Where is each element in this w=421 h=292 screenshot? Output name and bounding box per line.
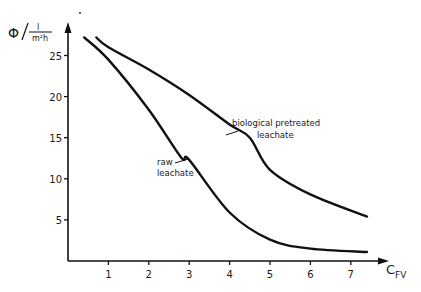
stray-dot: [79, 12, 81, 14]
x-tick-label: 2: [146, 269, 152, 280]
y-tick-label: 20: [49, 92, 62, 103]
y-axis-symbol: Φ: [8, 25, 19, 41]
annotations: rawleachatebiological pretreatedleachate: [157, 118, 320, 178]
x-tick-label: 5: [267, 269, 273, 280]
raw-leachate-curve: [84, 37, 367, 252]
pretreated-leader-line: [226, 131, 238, 135]
axis-ticks: 1234567510152025: [49, 51, 354, 281]
y-axis-arrow-icon: [65, 22, 72, 33]
x-tick-label: 3: [186, 269, 192, 280]
flux-chart: 1234567510152025 rawleachatebiological p…: [0, 0, 421, 292]
y-tick-label: 10: [49, 174, 62, 185]
curves: [84, 37, 367, 252]
y-unit-numerator: l: [37, 23, 39, 32]
x-tick-label: 7: [348, 269, 354, 280]
raw-leachate-label-line2: leachate: [157, 168, 194, 178]
y-axis-slash: [22, 23, 28, 40]
y-tick-label: 15: [49, 133, 62, 144]
y-tick-label: 5: [56, 215, 62, 226]
x-axis-label-sub: FV: [395, 270, 407, 280]
x-tick-label: 4: [226, 269, 232, 280]
pretreated-label-line2: leachate: [257, 130, 294, 140]
y-tick-label: 25: [49, 51, 62, 62]
y-unit-denominator: m²h: [32, 34, 48, 43]
raw-leachate-label: raw: [157, 157, 173, 167]
x-tick-label: 6: [307, 269, 313, 280]
x-axis-label-main: C: [386, 262, 395, 277]
pretreated-label: biological pretreated: [232, 118, 320, 128]
axes: [65, 22, 390, 265]
x-tick-label: 1: [105, 269, 111, 280]
